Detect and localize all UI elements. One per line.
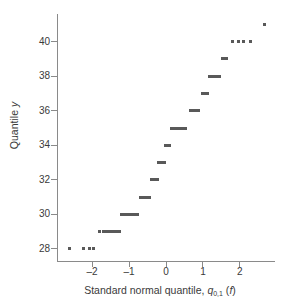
data-marker: [231, 40, 234, 43]
data-marker: [208, 75, 221, 78]
data-marker: [249, 40, 252, 43]
data-markers-layer: [0, 0, 283, 307]
data-marker: [150, 178, 159, 181]
x-axis-title-text: Standard normal quantile,: [84, 284, 207, 296]
data-marker: [98, 230, 101, 233]
data-marker: [139, 196, 151, 199]
x-axis-title-subscript: 0,1: [213, 290, 223, 297]
x-axis-title-paren-close: ): [232, 284, 236, 296]
data-marker: [92, 247, 95, 250]
qq-plot-figure: 28303234363840 –2–1012 Quantile y Standa…: [0, 0, 283, 307]
data-marker: [189, 109, 200, 112]
data-marker: [237, 40, 240, 43]
data-marker: [263, 23, 266, 26]
y-axis-title: Quantile y: [9, 66, 20, 186]
y-axis-title-variable: y: [8, 102, 20, 107]
data-marker: [68, 247, 71, 250]
data-marker: [102, 230, 121, 233]
data-marker: [157, 161, 166, 164]
data-marker: [164, 144, 171, 147]
data-marker: [201, 92, 209, 95]
data-marker: [82, 247, 85, 250]
x-axis-title: Standard normal quantile, q0,1 (f): [40, 284, 280, 300]
data-marker: [225, 57, 228, 60]
plot-area: 28303234363840 –2–1012: [0, 0, 283, 307]
data-marker: [170, 127, 187, 130]
data-marker: [242, 40, 245, 43]
y-axis-title-text: Quantile: [8, 107, 20, 149]
data-marker: [120, 213, 139, 216]
